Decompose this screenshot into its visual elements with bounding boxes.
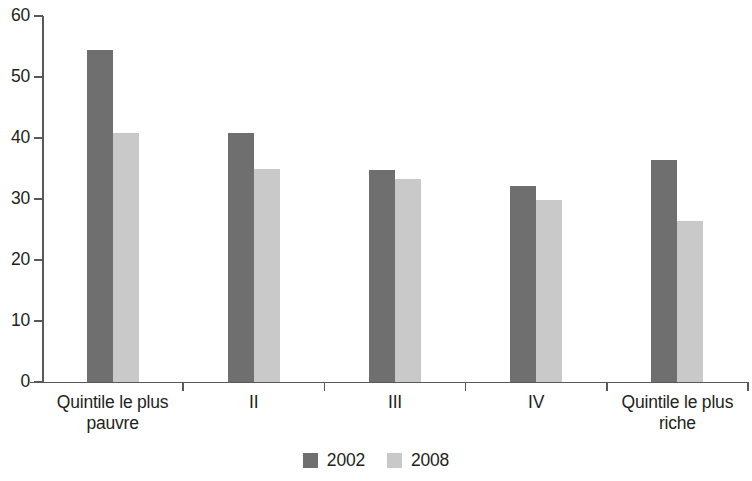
bar-chart: 0102030405060 Quintile le plus pauvreIII… [0,0,752,481]
x-axis-label: Quintile le plus pauvre [38,392,187,434]
legend-label: 2002 [327,452,365,470]
legend-label: 2008 [411,452,449,470]
legend-item-2008: 2008 [387,452,449,470]
chart-legend: 20022008 [0,452,752,470]
y-axis-tick-label: 0 [0,373,30,391]
y-axis-tick-label: 50 [0,68,30,86]
y-axis-tick-label: 20 [0,251,30,269]
bars-layer [42,16,748,382]
bar-2002-iv [510,186,536,382]
x-axis-label: II [179,392,328,413]
x-axis-label: IV [462,392,611,413]
legend-swatch-icon [303,453,318,468]
y-axis-tick-label: 10 [0,312,30,330]
y-axis-tick-label: 40 [0,129,30,147]
y-axis-tick-label: 30 [0,190,30,208]
x-axis-tick [747,382,749,391]
bar-2008-ii [254,169,280,383]
legend-item-2002: 2002 [303,452,365,470]
x-axis-tick [606,382,608,391]
bar-2008-iii [395,179,421,382]
bar-2008-iv [536,200,562,382]
x-axis-label: III [320,392,469,413]
x-axis-tick [324,382,326,391]
legend-swatch-icon [387,453,402,468]
x-axis-label: Quintile le plus riche [603,392,752,434]
y-axis-tick-label: 60 [0,7,30,25]
bar-2002-quintile-le-plus-pauvre [87,50,113,382]
bar-2002-iii [369,170,395,382]
x-axis-tick [465,382,467,391]
bar-2002-ii [228,133,254,382]
bar-2008-quintile-le-plus-pauvre [113,133,139,382]
x-axis-tick [182,382,184,391]
bar-2002-quintile-le-plus-riche [651,160,677,382]
bar-2008-quintile-le-plus-riche [677,221,703,382]
